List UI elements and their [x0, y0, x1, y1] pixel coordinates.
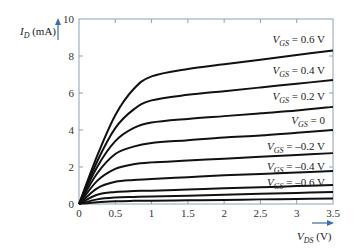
- curve-label: VGS = 0.6 V: [273, 33, 326, 48]
- x-axis-title: VDS (V): [297, 220, 334, 245]
- x-tick-label: 3: [294, 207, 300, 219]
- y-tick-label: 6: [69, 87, 75, 99]
- x-axis-arrow-icon: [312, 220, 334, 226]
- y-tick-label: 0: [69, 198, 75, 210]
- y-tick-label: 2: [69, 161, 75, 173]
- x-tick-label: 1: [149, 207, 155, 219]
- curve: [79, 192, 333, 204]
- curve-label: VGS = 0.2 V: [273, 90, 326, 105]
- curve-label: VGS = 0: [291, 114, 325, 129]
- x-tick-label: 2: [221, 207, 227, 219]
- x-tick-label: 1.5: [181, 207, 195, 219]
- y-tick-label: 10: [63, 13, 75, 25]
- curve-label: VGS = –0.6 V: [267, 176, 325, 191]
- svg-text:VDS (V): VDS (V): [297, 230, 332, 245]
- x-tick-label: 3.5: [326, 207, 340, 219]
- x-tick-label: 0.5: [108, 207, 122, 219]
- y-tick-label: 8: [69, 50, 75, 62]
- x-tick-label: 0: [76, 207, 82, 219]
- x-tick-label: 2.5: [254, 207, 268, 219]
- id-vds-chart: 00.511.522.533.50246810 VGS = 0.6 VVGS =…: [0, 0, 356, 249]
- y-tick-label: 4: [69, 124, 75, 136]
- curve-label: VGS = –0.2 V: [267, 140, 325, 155]
- curve: [79, 198, 333, 204]
- y-axis-title: ID (mA): [19, 18, 61, 40]
- curve-label: VGS = 0.4 V: [273, 64, 326, 79]
- svg-text:ID (mA): ID (mA): [19, 25, 56, 40]
